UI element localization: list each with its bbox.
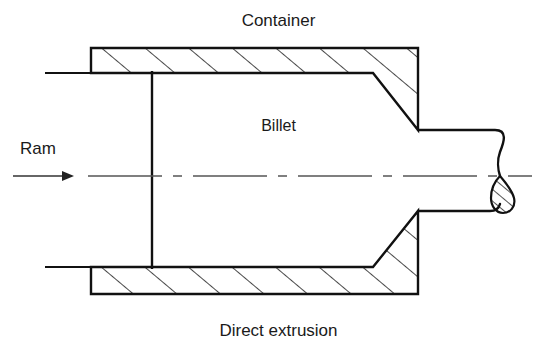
ram-label: Ram: [20, 139, 56, 159]
diagram-canvas: Container Billet Ram Direct extrusion: [0, 0, 557, 354]
figure-caption: Direct extrusion: [0, 321, 557, 341]
billet-label: Billet: [0, 117, 557, 135]
direct-extrusion-drawing: [0, 0, 557, 354]
container-label: Container: [0, 11, 557, 31]
